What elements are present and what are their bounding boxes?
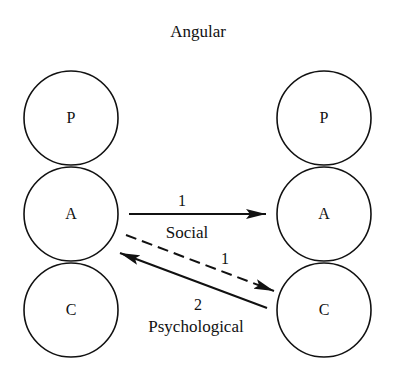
left-adult-label: A — [65, 205, 77, 222]
psychological-number: 2 — [194, 296, 202, 313]
diagram-title: Angular — [170, 22, 226, 41]
right-ego-stack: P A C — [277, 71, 371, 357]
left-parent-label: P — [67, 109, 76, 126]
right-child-label: C — [319, 301, 330, 318]
ego-state-diagram: Angular P A C P A C 1 Social 1 2 Psychol… — [0, 0, 395, 368]
ulterior-number: 1 — [221, 250, 229, 267]
social-label: Social — [166, 223, 209, 242]
left-child-label: C — [66, 301, 77, 318]
left-ego-stack: P A C — [24, 71, 118, 357]
right-parent-label: P — [320, 109, 329, 126]
social-number: 1 — [178, 192, 186, 209]
right-adult-label: A — [318, 205, 330, 222]
psychological-label: Psychological — [148, 317, 244, 336]
